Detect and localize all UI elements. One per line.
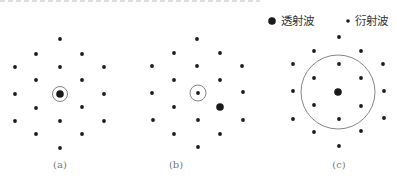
diffracted-spot xyxy=(172,51,176,55)
panel-c xyxy=(291,35,386,148)
diffracted-spot xyxy=(312,76,316,80)
diffracted-spot xyxy=(337,144,341,148)
diffracted-spot xyxy=(291,62,295,66)
diffracted-spot xyxy=(58,146,62,150)
diffracted-spot xyxy=(381,62,385,66)
diffracted-spot xyxy=(196,145,200,149)
diffracted-spot xyxy=(34,132,38,136)
diffracted-spot xyxy=(13,65,17,69)
panel-a-label: (a) xyxy=(53,159,67,170)
diffracted-spot xyxy=(58,65,62,69)
diffracted-spot xyxy=(58,37,62,41)
transmitted-spot xyxy=(334,88,342,96)
diffracted-spot xyxy=(13,92,17,96)
diffracted-spot xyxy=(312,49,316,53)
panel-b-label: (b) xyxy=(169,159,183,170)
diffracted-spot xyxy=(312,130,316,134)
legend-diffracted-label: 衍射波 xyxy=(355,14,389,28)
diffracted-spot xyxy=(291,117,295,121)
diffracted-spot xyxy=(172,105,176,109)
legend-diffracted-marker-icon xyxy=(346,19,350,23)
legend: 透射波 衍射波 xyxy=(268,14,389,28)
diffracted-spot xyxy=(150,64,154,68)
diffracted-spot xyxy=(359,129,363,133)
diffracted-spot xyxy=(218,78,222,82)
diffracted-spot xyxy=(195,37,199,41)
diffracted-spot xyxy=(58,119,62,123)
diffracted-spot xyxy=(80,132,84,136)
diffracted-spot xyxy=(337,62,341,66)
diffracted-spot xyxy=(337,35,341,39)
diffracted-spot xyxy=(359,49,363,53)
diffracted-spot xyxy=(80,52,84,56)
diffracted-spot xyxy=(196,91,200,95)
diffracted-spot xyxy=(312,103,316,107)
diffracted-spot xyxy=(151,118,155,122)
transmitted-spot xyxy=(56,90,64,98)
diffracted-spot xyxy=(291,89,295,93)
legend-transmitted-marker-icon xyxy=(268,17,276,25)
diffracted-spot xyxy=(241,118,245,122)
diffracted-spot xyxy=(80,78,84,82)
panel-c-label: (c) xyxy=(332,159,346,170)
diffracted-spot xyxy=(102,92,106,96)
diffracted-spot xyxy=(102,119,106,123)
diffracted-spot xyxy=(102,65,106,69)
diffracted-spot xyxy=(196,118,200,122)
diffracted-spot xyxy=(359,104,363,108)
diffracted-spot xyxy=(382,116,386,120)
panel-b xyxy=(150,37,245,149)
diffracted-spot xyxy=(34,78,38,82)
transmitted-spot xyxy=(216,103,224,111)
legend-transmitted-label: 透射波 xyxy=(281,14,315,28)
diffracted-spot xyxy=(195,64,199,68)
diffracted-spot xyxy=(337,117,341,121)
diffracted-spot xyxy=(240,64,244,68)
diffracted-spot xyxy=(218,132,222,136)
diffracted-spot xyxy=(218,51,222,55)
diffracted-spot xyxy=(359,76,363,80)
diffracted-spot xyxy=(172,132,176,136)
diffracted-spot xyxy=(13,119,17,123)
diffracted-spot xyxy=(34,106,38,110)
diffracted-spot xyxy=(172,78,176,82)
diffraction-figure: 透射波 衍射波 (a) (b) (c) xyxy=(0,0,397,180)
diffracted-spot xyxy=(80,105,84,109)
diffracted-spot xyxy=(382,89,386,93)
diffracted-spot xyxy=(241,90,245,94)
panel-a xyxy=(13,37,106,150)
diffracted-spot xyxy=(34,52,38,56)
diffracted-spot xyxy=(150,91,154,95)
